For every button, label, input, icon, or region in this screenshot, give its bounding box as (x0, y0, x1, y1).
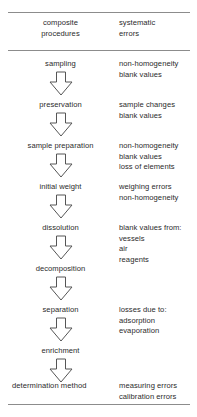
down-arrow-outline-icon (48, 112, 74, 137)
error-item: loss of elements (119, 162, 197, 173)
left-column-header-line2: procedures (8, 29, 113, 40)
process-step-label: dissolution (8, 223, 113, 234)
error-list: sample changes blank values (119, 100, 197, 121)
process-step-label: sample preparation (8, 141, 113, 152)
error-item: air (119, 244, 197, 255)
error-item: measuring errors (119, 381, 197, 392)
process-step-label: enrichment (8, 346, 113, 357)
error-list: non-homogeneity blank values (119, 59, 197, 80)
error-item: sample changes (119, 100, 197, 111)
error-list: measuring errors calibration errors (119, 381, 197, 402)
down-arrow-outline-icon (48, 276, 74, 301)
error-item: blank values (119, 152, 197, 163)
process-step-label: decomposition (8, 264, 113, 275)
error-item: blank values (119, 111, 197, 122)
error-item: non-homogeneity (119, 141, 197, 152)
error-item: non-homogeneity (119, 193, 197, 204)
error-item: losses due to: (119, 305, 197, 316)
down-arrow-outline-icon (48, 194, 74, 219)
process-step-label: preservation (8, 100, 113, 111)
down-arrow-outline-icon (48, 358, 74, 383)
flowchart-figure: composite procedures systematic errors s… (0, 0, 197, 417)
left-column-header-line1: composite (8, 18, 113, 29)
error-list: non-homogeneity blank values loss of ele… (119, 141, 197, 173)
down-arrow-outline-icon (48, 317, 74, 342)
error-item: calibration errors (119, 392, 197, 403)
error-item: blank values (119, 70, 197, 81)
process-step-label: separation (8, 305, 113, 316)
error-item: non-homogeneity (119, 59, 197, 70)
process-step-label: sampling (8, 59, 113, 70)
error-item: vessels (119, 234, 197, 245)
left-column-header: composite procedures (8, 18, 113, 39)
right-column-header: systematic errors (119, 18, 197, 39)
rule-top (8, 12, 190, 13)
error-item: adsorption (119, 316, 197, 327)
right-column-header-line1: systematic (119, 18, 197, 29)
error-item: weighing errors (119, 182, 197, 193)
error-list: blank values from: vessels air reagents (119, 223, 197, 265)
process-step-label: determination method (12, 381, 117, 392)
down-arrow-outline-icon (48, 153, 74, 178)
down-arrow-outline-icon (48, 71, 74, 96)
down-arrow-outline-icon (48, 235, 74, 260)
process-step-label: initial weight (8, 182, 113, 193)
right-column-header-line2: errors (119, 29, 197, 40)
rule-bottom (8, 404, 190, 405)
error-item: reagents (119, 255, 197, 266)
column-headers: composite procedures systematic errors (0, 18, 197, 48)
error-item: evaporation (119, 326, 197, 337)
error-item: blank values from: (119, 223, 197, 234)
rule-header (8, 50, 190, 51)
error-list: losses due to: adsorption evaporation (119, 305, 197, 337)
error-list: weighing errors non-homogeneity (119, 182, 197, 203)
